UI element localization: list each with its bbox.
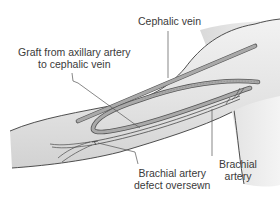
cephalic-vein-label: Cephalic vein xyxy=(138,15,201,27)
graft-label-line-1: Graft from axillary artery xyxy=(18,46,131,58)
cephalic-vein-label-line-1: Cephalic vein xyxy=(138,15,201,27)
graft-label-line-2: to cephalic vein xyxy=(18,58,131,70)
brachial-defect-label-line-1: Brachial artery xyxy=(134,167,210,179)
brachial-artery-label-line-2: artery xyxy=(219,170,257,182)
brachial-defect-label-line-2: defect oversewn xyxy=(134,179,210,191)
brachial-defect-label: Brachial artery defect oversewn xyxy=(134,167,210,191)
graft-label: Graft from axillary artery to cephalic v… xyxy=(18,46,131,70)
brachial-artery-label-line-1: Brachial xyxy=(219,158,257,170)
brachial-artery-label: Brachial artery xyxy=(219,158,257,182)
